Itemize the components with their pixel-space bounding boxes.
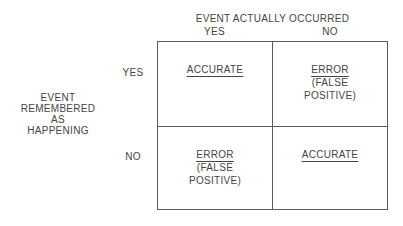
- cell-remembered-no-occurred-no: ACCURATE: [273, 127, 387, 209]
- matrix-grid: ACCURATE ERROR (FALSE POSITIVE) ERROR (F…: [157, 41, 388, 210]
- row-axis-title-line-2: REMEMBERED: [10, 103, 106, 114]
- column-header-yes: YES: [157, 26, 272, 37]
- row-header-no: NO: [113, 151, 153, 162]
- column-axis-title: EVENT ACTUALLY OCCURRED: [157, 13, 388, 24]
- cell-detail-line: POSITIVE): [304, 89, 356, 102]
- row-axis-title: EVENT REMEMBERED AS HAPPENING: [10, 92, 106, 136]
- row-header-yes: YES: [113, 67, 153, 78]
- cell-detail-line: (FALSE: [197, 161, 233, 174]
- cell-detail-line: POSITIVE): [189, 174, 241, 187]
- cell-detail-line: (FALSE: [312, 76, 348, 89]
- cell-remembered-yes-occurred-yes: ACCURATE: [158, 42, 273, 127]
- cell-result-label: ACCURATE: [187, 63, 244, 76]
- row-axis-title-line-1: EVENT: [10, 92, 106, 103]
- cell-result-label: ACCURATE: [302, 148, 359, 161]
- cell-remembered-no-occurred-yes: ERROR (FALSE POSITIVE): [158, 127, 273, 209]
- cell-result-label: ERROR: [196, 148, 234, 161]
- column-header-no: NO: [272, 26, 388, 37]
- cell-remembered-yes-occurred-no: ERROR (FALSE POSITIVE): [273, 42, 387, 127]
- row-axis-title-line-4: HAPPENING: [10, 125, 106, 136]
- row-axis-title-line-3: AS: [10, 114, 106, 125]
- cell-result-label: ERROR: [311, 63, 349, 76]
- memory-accuracy-matrix: EVENT ACTUALLY OCCURRED YES NO EVENT REM…: [0, 0, 403, 226]
